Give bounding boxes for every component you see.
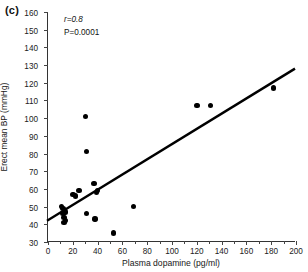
x-tick-mark-minor bbox=[209, 241, 210, 244]
scatter-point bbox=[194, 103, 199, 108]
y-tick-mark: 80 bbox=[44, 154, 48, 155]
x-tick-mark bbox=[98, 241, 99, 245]
scatter-point bbox=[84, 149, 89, 154]
x-tick-mark-minor bbox=[284, 241, 285, 244]
x-tick-label: 140 bbox=[215, 247, 229, 256]
y-tick-label: 160 bbox=[24, 9, 38, 18]
scatter-point bbox=[131, 204, 136, 209]
x-tick-mark-minor bbox=[60, 241, 61, 244]
plot-area: 30405060708090100110120130140150160 0204… bbox=[47, 12, 295, 242]
scatter-point bbox=[63, 209, 68, 214]
y-tick-mark: 120 bbox=[44, 83, 48, 84]
x-axis-title: Plasma dopamine (pg/ml) bbox=[122, 258, 220, 268]
y-tick-mark: 50 bbox=[44, 207, 48, 208]
x-tick-label: 40 bbox=[93, 247, 102, 256]
y-tick-mark: 110 bbox=[44, 100, 48, 101]
x-tick-label: 20 bbox=[68, 247, 77, 256]
x-tick-mark bbox=[147, 241, 148, 245]
x-tick-mark-minor bbox=[85, 241, 86, 244]
scatter-point bbox=[95, 188, 100, 193]
scatter-point bbox=[63, 218, 68, 223]
x-tick-label: 0 bbox=[46, 247, 51, 256]
x-tick-mark bbox=[197, 241, 198, 245]
x-tick-label: 100 bbox=[165, 247, 179, 256]
x-tick-mark bbox=[73, 241, 74, 245]
y-tick-mark: 130 bbox=[44, 65, 48, 66]
panel-label: (c) bbox=[5, 4, 19, 16]
scatter-point bbox=[271, 85, 276, 90]
x-tick-mark-minor bbox=[135, 241, 136, 244]
scatter-point bbox=[73, 193, 78, 198]
figure-panel-c: (c) Erect mean BP (mmHg) Plasma dopamine… bbox=[0, 0, 308, 272]
y-tick-mark: 150 bbox=[44, 30, 48, 31]
y-tick-mark: 140 bbox=[44, 47, 48, 48]
x-tick-mark bbox=[246, 241, 247, 245]
x-tick-label: 200 bbox=[289, 247, 303, 256]
scatter-point bbox=[84, 211, 89, 216]
y-tick-mark: 160 bbox=[44, 12, 48, 13]
y-tick-mark: 100 bbox=[44, 118, 48, 119]
x-tick-label: 60 bbox=[118, 247, 127, 256]
x-tick-label: 120 bbox=[190, 247, 204, 256]
x-tick-mark bbox=[271, 241, 272, 245]
scatter-point bbox=[208, 103, 213, 108]
x-tick-label: 80 bbox=[143, 247, 152, 256]
y-tick-mark: 40 bbox=[44, 224, 48, 225]
x-tick-label: 160 bbox=[240, 247, 254, 256]
x-tick-mark bbox=[122, 241, 123, 245]
y-tick-label: 150 bbox=[24, 26, 38, 35]
y-tick-label: 50 bbox=[29, 203, 38, 212]
x-tick-mark-minor bbox=[160, 241, 161, 244]
y-tick-mark: 60 bbox=[44, 189, 48, 190]
scatter-point bbox=[92, 216, 97, 221]
scatter-point bbox=[83, 114, 88, 119]
x-tick-mark-minor bbox=[234, 241, 235, 244]
x-tick-label: 180 bbox=[264, 247, 278, 256]
scatter-point bbox=[111, 230, 116, 235]
y-tick-label: 80 bbox=[29, 150, 38, 159]
y-tick-label: 110 bbox=[25, 97, 38, 106]
y-tick-label: 70 bbox=[29, 168, 38, 177]
y-tick-label: 140 bbox=[24, 44, 38, 53]
scatter-point bbox=[76, 188, 81, 193]
y-tick-label: 40 bbox=[29, 221, 38, 230]
x-tick-mark-minor bbox=[259, 241, 260, 244]
y-tick-label: 100 bbox=[24, 115, 38, 124]
y-tick-mark: 70 bbox=[44, 171, 48, 172]
x-tick-mark bbox=[48, 241, 49, 245]
x-tick-mark bbox=[172, 241, 173, 245]
x-tick-mark bbox=[222, 241, 223, 245]
x-tick-mark-minor bbox=[110, 241, 111, 244]
y-tick-label: 120 bbox=[24, 79, 38, 88]
y-tick-mark: 90 bbox=[44, 136, 48, 137]
scatter-point bbox=[91, 181, 96, 186]
y-tick-label: 90 bbox=[29, 132, 38, 141]
y-axis-title: Erect mean BP (mmHg) bbox=[0, 83, 9, 172]
x-tick-mark-minor bbox=[184, 241, 185, 244]
x-tick-mark bbox=[296, 241, 297, 245]
y-tick-label: 30 bbox=[29, 239, 38, 248]
y-tick-label: 60 bbox=[29, 185, 38, 194]
y-tick-label: 130 bbox=[24, 62, 38, 71]
